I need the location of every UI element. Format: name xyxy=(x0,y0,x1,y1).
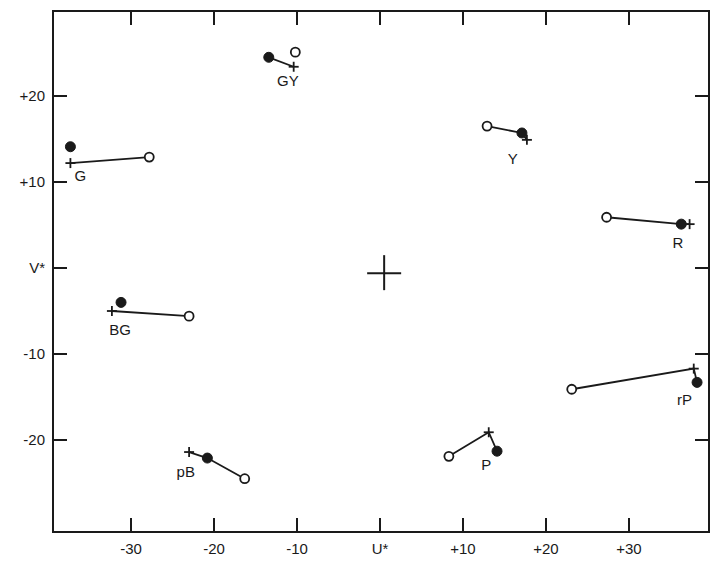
y-tick-label: V* xyxy=(29,259,45,276)
filled-circle-marker xyxy=(116,297,126,307)
connector-line xyxy=(112,311,189,316)
connector-line xyxy=(449,432,497,456)
filled-circle-marker xyxy=(65,142,75,152)
group-label: pB xyxy=(177,463,195,480)
open-circle-marker xyxy=(567,385,576,394)
open-circle-marker xyxy=(185,312,194,321)
plus-marker xyxy=(689,364,699,374)
x-tick-label: +20 xyxy=(533,540,558,557)
x-tick-label: -30 xyxy=(120,540,142,557)
plus-marker xyxy=(484,427,494,437)
plot-border xyxy=(53,11,709,532)
connector-line xyxy=(572,369,697,390)
y-tick-label: -10 xyxy=(23,345,45,362)
plus-marker xyxy=(184,447,194,457)
open-circle-marker xyxy=(602,213,611,222)
data-group-r: R xyxy=(602,213,695,251)
group-label: rP xyxy=(677,391,692,408)
data-group-g: G xyxy=(65,142,153,184)
group-label: G xyxy=(75,167,87,184)
y-tick-label: -20 xyxy=(23,431,45,448)
x-tick-label: +10 xyxy=(450,540,475,557)
filled-circle-marker xyxy=(517,128,527,138)
open-circle-marker xyxy=(291,48,300,57)
scatter-chart: -30-20-10U*+10+20+30+20+10V*-10-20 GYGYR… xyxy=(0,0,720,567)
y-tick-label: +20 xyxy=(20,87,45,104)
x-tick-label: +30 xyxy=(616,540,641,557)
open-circle-marker xyxy=(444,452,453,461)
group-label: Y xyxy=(508,150,518,167)
plus-marker xyxy=(289,62,299,72)
data-group-p: P xyxy=(444,427,502,473)
connector-line xyxy=(189,452,245,479)
group-label: P xyxy=(481,456,491,473)
group-label: GY xyxy=(277,72,299,89)
x-tick-label: -20 xyxy=(203,540,225,557)
data-group-gy: GY xyxy=(264,48,300,89)
data-group-bg: BG xyxy=(107,297,194,338)
connector-line xyxy=(70,157,149,163)
filled-circle-marker xyxy=(202,453,212,463)
x-tick-label: -10 xyxy=(286,540,308,557)
data-group-rp: rP xyxy=(567,364,702,408)
x-tick-label: U* xyxy=(372,540,389,557)
open-circle-marker xyxy=(240,474,249,483)
open-circle-marker xyxy=(483,122,492,131)
center-cross-marker xyxy=(367,255,401,290)
filled-circle-marker xyxy=(492,446,502,456)
data-group-y: Y xyxy=(483,122,532,167)
plus-marker xyxy=(107,306,117,316)
data-group-pb: pB xyxy=(177,447,250,483)
open-circle-marker xyxy=(145,153,154,162)
plot-frame xyxy=(53,11,709,532)
filled-circle-marker xyxy=(692,377,702,387)
filled-circle-marker xyxy=(264,52,274,62)
axis-ticks xyxy=(53,11,709,532)
group-label: R xyxy=(673,234,684,251)
plus-marker xyxy=(685,219,695,229)
group-label: BG xyxy=(109,321,131,338)
y-tick-label: +10 xyxy=(20,173,45,190)
